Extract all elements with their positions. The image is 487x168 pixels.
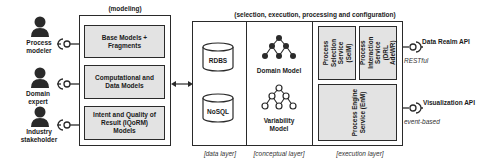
domain-model-tree-icon <box>258 34 300 62</box>
api-visualization-protocol: event-based <box>404 118 448 125</box>
bidirectional-arrow-icon <box>171 80 193 88</box>
interface-connector-icon <box>56 38 80 50</box>
domain-model-label: Domain Model <box>250 67 308 75</box>
layer-divider <box>312 21 313 146</box>
layer-divider <box>246 21 247 146</box>
variability-model-label: Variability Model <box>258 117 300 133</box>
api-visualization: Visualization API <box>421 99 477 107</box>
service-selection: Process Selection Service (SelM) <box>318 26 356 80</box>
platform-title: (selection, execution, processing and co… <box>200 11 430 19</box>
api-data-realm-protocol: RESTful <box>404 57 434 64</box>
actor-process-modeler: Process modeler <box>18 39 60 55</box>
interface-connector-icon <box>56 78 80 90</box>
service-engine: Process Engine Service (EnM) <box>318 84 397 141</box>
variability-model-tree-icon <box>258 84 300 112</box>
api-connector-icon <box>403 41 423 53</box>
model-iqorm: Intent and Quality of Result (IQoRM) Mod… <box>84 106 165 140</box>
api-connector-icon <box>403 102 423 114</box>
actor-domain-expert: Domain expert <box>18 90 58 106</box>
modeling-title: (modeling) <box>80 5 170 13</box>
model-base-fragments: Base Models + Fragments <box>84 25 165 58</box>
model-computational-data: Computational and Data Models <box>84 65 165 99</box>
execution-layer-label: [execution layer] <box>320 150 400 157</box>
api-data-realm: Data Realm API <box>421 38 471 46</box>
data-layer-label: [data layer] <box>192 150 248 157</box>
interface-connector-icon <box>56 119 80 131</box>
service-interaction: Process Interaction Service (DRL AdeWR) <box>359 26 397 80</box>
person-icon <box>28 67 52 89</box>
db-nosql: NoSQL <box>202 108 234 116</box>
person-icon <box>28 16 52 38</box>
conceptual-layer-label: [conceptual layer] <box>246 150 312 157</box>
db-rdbs: RDBS <box>202 57 234 65</box>
person-icon <box>28 106 52 128</box>
